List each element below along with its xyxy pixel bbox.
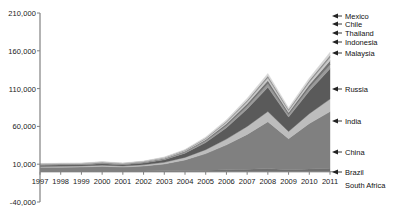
x-axis-label: 2000 (94, 177, 111, 186)
x-axis-label: 2007 (239, 177, 256, 186)
legend-label-indonesia: Indonesia (345, 38, 378, 47)
x-axis-label: 2002 (135, 177, 152, 186)
x-axis-label: 2003 (156, 177, 173, 186)
x-axis-tick-labels: 1997199819992000200120022003200420052006… (0, 0, 394, 219)
x-axis-label: 2008 (260, 177, 277, 186)
legend-label-thailand: Thailand (345, 29, 374, 38)
x-axis-label: 2009 (280, 177, 297, 186)
x-axis-label: 2005 (197, 177, 214, 186)
x-axis-label: 2001 (115, 177, 132, 186)
legend-label-brazil: Brazil (345, 168, 364, 177)
legend-label-malaysia: Malaysia (345, 49, 375, 58)
chart-root: 210,000160,000110,00060,00010,000-40,000… (0, 0, 394, 219)
x-axis-label: 1999 (73, 177, 90, 186)
x-axis-label: 2011 (322, 177, 338, 186)
x-axis-label: 2004 (177, 177, 194, 186)
x-axis-label: 2010 (301, 177, 318, 186)
x-axis-label: 1998 (52, 177, 69, 186)
legend-label-china: China (345, 148, 365, 157)
x-axis-label: 2006 (218, 177, 235, 186)
legend-label-russia: Russia (345, 85, 368, 94)
legend-label-south-africa: South Africa (345, 181, 385, 190)
x-axis-label: 1997 (32, 177, 49, 186)
legend-label-chile: Chile (345, 20, 362, 29)
legend-label-india: India (345, 117, 361, 126)
